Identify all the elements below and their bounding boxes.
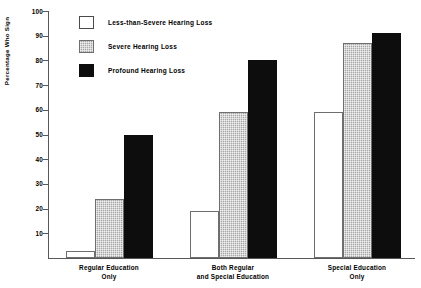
y-axis-tick-label: 50 [17, 131, 43, 138]
y-axis-tick-label-wrap: 70 [0, 82, 43, 89]
y-axis-tick-label: 100 [17, 8, 43, 15]
legend-swatch-gray [79, 40, 94, 53]
y-axis-title: Percentage Who Sign [0, 0, 14, 106]
chart-legend: Less-than-Severe Hearing LossSevere Hear… [79, 16, 299, 88]
bar [124, 135, 153, 259]
y-axis-tick-label: 20 [17, 205, 43, 212]
bar [372, 33, 401, 258]
x-axis-line [48, 258, 415, 259]
bar [66, 251, 95, 258]
legend-swatch-white [79, 16, 94, 29]
y-axis-tick-label-wrap: 20 [0, 205, 43, 212]
y-axis-tick-label: 90 [17, 32, 43, 39]
bar [343, 43, 372, 258]
bar [190, 211, 219, 258]
y-axis-tick-label-wrap: 40 [0, 156, 43, 163]
legend-item: Severe Hearing Loss [79, 40, 299, 64]
bar [219, 112, 248, 258]
y-axis-tick-label-wrap: 30 [0, 180, 43, 187]
y-axis-tick-label: 30 [17, 180, 43, 187]
x-axis-category-label-line: Special Education [284, 264, 421, 273]
legend-item: Less-than-Severe Hearing Loss [79, 16, 299, 40]
y-axis-tick-label-wrap: 80 [0, 57, 43, 64]
legend-label: Less-than-Severe Hearing Loss [108, 19, 212, 27]
legend-label: Profound Hearing Loss [108, 67, 185, 75]
y-axis-tick-label: 60 [17, 106, 43, 113]
y-axis-tick-label: 80 [17, 57, 43, 64]
bar [95, 199, 124, 258]
bar [314, 112, 343, 258]
y-axis-tick-label: 40 [17, 156, 43, 163]
bar [248, 60, 277, 258]
legend-label: Severe Hearing Loss [108, 43, 177, 51]
y-axis-tick-label-wrap: 10 [0, 230, 43, 237]
legend-item: Profound Hearing Loss [79, 64, 299, 88]
x-axis-category-label-line: Only [284, 273, 421, 282]
y-axis-tick-label-wrap: 60 [0, 106, 43, 113]
y-axis-tick-label: 10 [17, 230, 43, 237]
x-axis-category-label: Special EducationOnly [284, 264, 421, 281]
y-axis-tick-label-wrap: 100 [0, 8, 43, 15]
y-axis-tick-label-wrap: 50 [0, 131, 43, 138]
legend-swatch-black [79, 64, 94, 77]
bar-chart: Percentage Who Sign 10090807060504030201… [0, 0, 421, 288]
y-axis-tick-label-wrap: 90 [0, 32, 43, 39]
y-axis-tick-label: 70 [17, 82, 43, 89]
